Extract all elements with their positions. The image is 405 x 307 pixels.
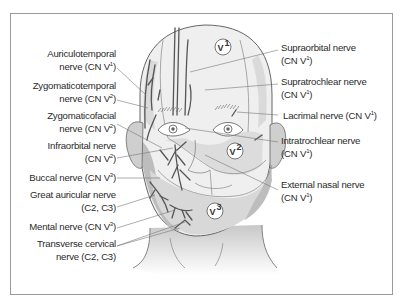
label-mental-nerve: Mental nerve (CN V3) [29, 221, 116, 234]
label-external-nasal-nerve: External nasal nerve (CN V1) [281, 179, 364, 204]
label-lacrimal-nerve: Lacrimal nerve (CN V1) [283, 110, 377, 123]
svg-text:3: 3 [217, 202, 222, 212]
label-supratrochlear-nerve: Supratrochlear nerve (CN V1) [281, 76, 367, 101]
label-infraorbital-nerve: Infraorbital nerve (CN V2) [48, 140, 116, 165]
label-transverse-cervical-nerve: Transverse cervical nerve (C2, C3) [37, 238, 116, 263]
label-zygomaticofacial-nerve: Zygomaticofacial nerve (CN V2) [47, 110, 116, 135]
label-buccal-nerve: Buccal nerve (CN V3) [29, 172, 116, 185]
label-intratrochlear-nerve: Intratrochlear nerve (CN V1) [281, 135, 360, 160]
label-great-auricular-nerve: Great auricular nerve (C2, C3) [30, 189, 116, 214]
label-auriculotemporal-nerve: Auriculotemporal nerve (CN V1) [47, 48, 116, 73]
label-supraorbital-nerve: Supraorbital nerve (CN V1) [281, 42, 356, 67]
svg-text:1: 1 [225, 38, 230, 48]
ear-left [126, 122, 143, 168]
svg-text:V: V [218, 43, 224, 53]
svg-text:V: V [210, 207, 216, 217]
label-zygomaticotemporal-nerve: Zygomaticotemporal nerve (CN V2) [33, 80, 116, 105]
svg-text:2: 2 [237, 142, 242, 152]
svg-text:V: V [230, 147, 236, 157]
